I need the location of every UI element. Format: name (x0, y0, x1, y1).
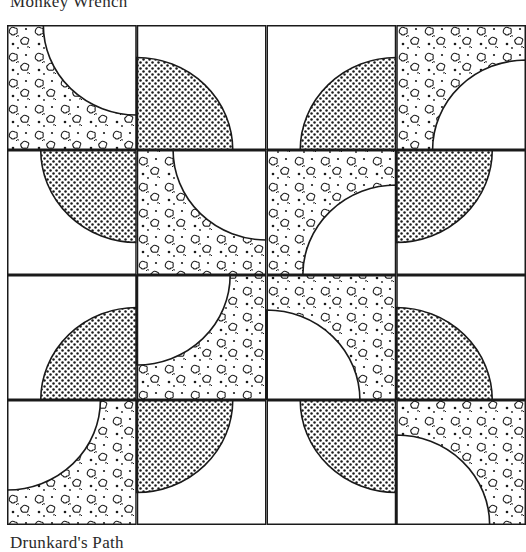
quilt-grid (7, 25, 526, 525)
quilt-tile-r0-c1 (137, 25, 267, 150)
quilt-tiles (7, 25, 526, 525)
block-title-top: Monkey Wrench (10, 0, 128, 12)
block-title-bottom: Drunkard's Path (10, 533, 124, 552)
quilt-tile-r3-c1 (137, 400, 267, 525)
quilt-tile-r3-c3 (396, 400, 526, 525)
quilt-tile-r0-c2 (267, 25, 397, 150)
quilt-tile-r3-c0 (7, 400, 137, 525)
quilt-tile-r3-c2 (267, 400, 397, 525)
quilt-tile-r1-c1 (137, 150, 267, 275)
quilt-tile-r1-c0 (7, 150, 137, 275)
quilt-tile-r0-c0 (7, 25, 137, 150)
quilt-tile-r2-c2 (267, 275, 397, 400)
quilt-tile-r1-c2 (267, 150, 397, 275)
quilt-tile-r2-c3 (396, 275, 526, 400)
quilt-block-diagram (7, 25, 526, 525)
quilt-tile-r2-c0 (7, 275, 137, 400)
quilt-tile-r2-c1 (137, 275, 267, 400)
quilt-tile-r1-c3 (396, 150, 526, 275)
quilt-tile-r0-c3 (396, 25, 526, 150)
